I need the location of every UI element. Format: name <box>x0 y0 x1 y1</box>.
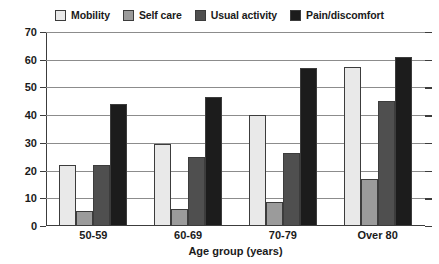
bar[interactable] <box>93 165 110 226</box>
bar[interactable] <box>266 202 283 226</box>
bar[interactable] <box>378 101 395 226</box>
legend-swatch-icon <box>195 10 206 21</box>
gridline: 0 <box>46 226 425 227</box>
legend-item-self-care[interactable]: Self care <box>123 9 182 21</box>
bar[interactable] <box>76 211 93 226</box>
bar[interactable] <box>154 144 171 226</box>
legend-item-usual-activity[interactable]: Usual activity <box>195 9 277 21</box>
bar[interactable] <box>283 153 300 226</box>
y-axis-tick-right <box>425 32 432 33</box>
bar-group <box>330 32 425 226</box>
legend-swatch-icon <box>123 10 134 21</box>
bar[interactable] <box>188 157 205 226</box>
x-axis-tick-labels: 50-5960-6970-79Over 80 <box>46 229 425 245</box>
legend-label: Self care <box>139 9 182 21</box>
y-axis-tick-label: 50 <box>25 81 37 93</box>
bar-group <box>236 32 331 226</box>
x-axis-tick-label: 50-59 <box>46 229 141 245</box>
legend-label: Pain/discomfort <box>306 9 384 21</box>
bar-group <box>141 32 236 226</box>
legend-label: Usual activity <box>211 9 277 21</box>
y-axis-tick-right <box>425 115 432 116</box>
y-axis-tick-right <box>425 171 432 172</box>
y-axis-tick-right <box>425 226 432 227</box>
x-axis-tick-label: 60-69 <box>141 229 236 245</box>
bar[interactable] <box>361 179 378 226</box>
y-axis-tick-right <box>425 60 432 61</box>
y-axis-tick-label: 30 <box>25 137 37 149</box>
y-axis-tick-right <box>425 87 432 88</box>
chart-legend: MobilitySelf careUsual activityPain/disc… <box>0 4 439 26</box>
plot-area: 010203040506070 <box>46 32 425 226</box>
y-axis-tick-right <box>425 143 432 144</box>
bar[interactable] <box>395 57 412 226</box>
x-axis-tick-label: 70-79 <box>236 229 331 245</box>
bar[interactable] <box>59 165 76 226</box>
bar[interactable] <box>110 104 127 226</box>
legend-label: Mobility <box>71 9 110 21</box>
bar-group <box>46 32 141 226</box>
y-axis-tick <box>40 226 46 227</box>
legend-item-mobility[interactable]: Mobility <box>55 9 110 21</box>
legend-swatch-icon <box>290 10 301 21</box>
bar[interactable] <box>300 68 317 226</box>
legend-swatch-icon <box>55 10 66 21</box>
bar[interactable] <box>205 97 222 226</box>
y-axis-tick-label: 10 <box>25 192 37 204</box>
x-axis-tick-label: Over 80 <box>330 229 425 245</box>
bar[interactable] <box>249 115 266 226</box>
y-axis-tick-label: 0 <box>31 220 37 232</box>
y-axis-tick-right <box>425 198 432 199</box>
y-axis-tick-label: 60 <box>25 54 37 66</box>
y-axis-tick-label: 40 <box>25 109 37 121</box>
y-axis-tick-label: 70 <box>25 26 37 38</box>
bar-chart: MobilitySelf careUsual activityPain/disc… <box>0 0 439 264</box>
bar[interactable] <box>171 209 188 226</box>
x-axis-title: Age group (years) <box>46 245 425 257</box>
legend-item-pain-discomfort[interactable]: Pain/discomfort <box>290 9 384 21</box>
y-axis-tick-label: 20 <box>25 165 37 177</box>
bar[interactable] <box>344 67 361 226</box>
bar-groups <box>46 32 425 226</box>
